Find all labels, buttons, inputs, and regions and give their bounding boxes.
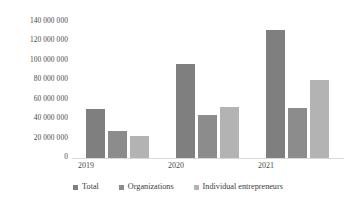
legend-label: Organizations (128, 182, 174, 192)
bar-total-2020 (176, 64, 195, 158)
bar-group-2021 (266, 12, 329, 158)
y-axis-tick-label: 60 000 000 (0, 95, 68, 103)
y-axis: 140 000 000 120 000 000 100 000 000 80 0… (0, 0, 68, 170)
bar-total-2021 (266, 30, 285, 158)
y-axis-tick-label: 120 000 000 (0, 36, 68, 44)
chart-legend: Total Organizations Individual entrepren… (0, 182, 356, 192)
legend-label: Individual entrepreneurs (203, 182, 283, 192)
y-axis-tick-label: 140 000 000 (0, 17, 68, 25)
legend-swatch-icon (194, 185, 199, 190)
plot-area (72, 12, 344, 158)
y-axis-tick-label: 20 000 000 (0, 134, 68, 142)
x-axis-line (72, 158, 344, 159)
y-axis-tick-label: 80 000 000 (0, 75, 68, 83)
y-axis-tick-label: 100 000 000 (0, 56, 68, 64)
legend-item-organizations: Organizations (119, 182, 174, 192)
y-axis-tick-label: 40 000 000 (0, 114, 68, 122)
legend-label: Total (82, 182, 99, 192)
bar-individual-entrepreneurs-2021 (310, 80, 329, 158)
x-axis-label-2021: 2021 (231, 161, 301, 171)
x-axis-label-2019: 2019 (51, 161, 121, 171)
legend-item-total: Total (73, 182, 99, 192)
bar-group-2019 (86, 12, 149, 158)
bar-organizations-2019 (108, 131, 127, 158)
bar-organizations-2021 (288, 108, 307, 158)
bar-individual-entrepreneurs-2020 (220, 107, 239, 158)
bar-organizations-2020 (198, 115, 217, 158)
x-axis-label-2020: 2020 (141, 161, 211, 171)
bar-group-2020 (176, 12, 239, 158)
legend-swatch-icon (119, 185, 124, 190)
legend-swatch-icon (73, 185, 78, 190)
y-axis-tick-label: 0 (0, 153, 68, 161)
legend-item-individual-entrepreneurs: Individual entrepreneurs (194, 182, 283, 192)
bar-individual-entrepreneurs-2019 (130, 136, 149, 158)
bar-chart-figure: 140 000 000 120 000 000 100 000 000 80 0… (0, 0, 356, 208)
bar-total-2019 (86, 109, 105, 158)
